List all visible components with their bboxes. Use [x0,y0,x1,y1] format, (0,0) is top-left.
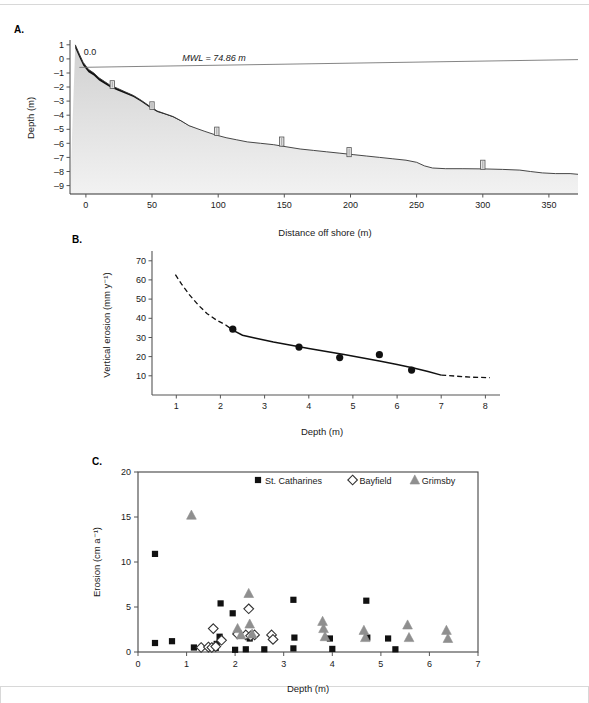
panel-b-x-tick-label: 1 [174,401,179,411]
panel-c-legend: St. CatharinesBayfieldGrimsby [255,475,456,486]
page-edge-left [0,686,1,703]
panel-c-data-point [230,610,236,616]
panel-a-y-tick-label: –7 [54,153,64,163]
panel-c-data-point [290,645,296,651]
panel-c-data-point [443,633,453,642]
panel-c-y-axis-title: Erosion (cm a⁻¹) [91,527,102,597]
panel-c-y-tick-label: 15 [121,512,131,522]
panel-c-data-point [152,551,158,557]
panel-c-x-tick-label: 0 [135,659,140,669]
panel-c-data-point [187,510,197,519]
legend-label: Bayfield [360,476,392,486]
legend-label: Grimsby [422,476,456,486]
panel-c-data-point [329,646,335,652]
panel-c-plot-frame [138,472,478,652]
panel-a-letter: A. [14,24,24,35]
panel-c-data-point [403,620,413,629]
panel-a-y-tick-label: 0 [59,54,64,64]
panel-c-data-point [291,635,297,641]
panel-a-y-tick-label: –1 [54,68,64,78]
panel-a-y-axis-title: Depth (m) [25,97,36,139]
mwl-label: MWL = 74.86 m [182,53,246,63]
panel-b-data-point [295,344,302,351]
panel-c-series-grimsby [187,510,453,642]
panel-c-data-point [359,625,369,634]
panel-c-x-tick-label: 1 [184,659,189,669]
panel-c-x-tick-label: 3 [281,659,286,669]
panel-a-y-tick-label: –6 [54,139,64,149]
panel-b-x-tick-label: 5 [350,401,355,411]
panel-a-x-tick-label: 0 [83,200,88,210]
panel-b-x-tick-label: 3 [262,401,267,411]
panel-c-data-point [290,597,296,603]
panel-c-data-point [261,646,267,652]
panel-a-y-tick-label: –2 [54,82,64,92]
panel-b: B. 1020304050607012345678Depth (m)Vertic… [0,230,589,442]
panel-b-x-tick-label: 7 [439,401,444,411]
panel-a-y-tick-label: –5 [54,124,64,134]
panel-b-chart: 1020304050607012345678Depth (m)Vertical … [0,230,589,442]
panel-b-x-tick-label: 6 [395,401,400,411]
panel-c-data-point [232,647,238,653]
panel-c-data-point [245,619,255,628]
panel-a-y-tick-label: –4 [54,110,64,120]
panel-b-data-point [408,367,415,374]
panel-c-data-point [243,646,249,652]
profile-fill [70,45,578,194]
panel-a-x-tick-label: 200 [343,200,358,210]
panel-c-data-point [244,604,254,614]
panel-c-data-point [244,588,254,597]
panel-c-y-tick-label: 0 [126,647,131,657]
panel-c-y-tick-label: 5 [126,602,131,612]
panel-b-y-tick-label: 30 [136,333,146,343]
legend-marker-triangle [410,475,420,484]
panel-b-x-tick-label: 4 [306,401,311,411]
page-top-rule [0,4,589,5]
panel-b-curve-dashed-left [175,275,225,325]
panel-b-y-tick-label: 40 [136,313,146,323]
legend-label: St. Catharines [265,476,323,486]
panel-b-y-tick-label: 10 [136,371,146,381]
panel-a-y-tick-label: 1 [59,40,64,50]
panel-b-data-point [336,354,343,361]
panel-c-data-point [363,598,369,604]
panel-a-x-tick-label: 100 [211,200,226,210]
panel-c-data-point [318,616,328,625]
panel-a-y-tick-label: –8 [54,167,64,177]
panel-a-y-tick-label: –3 [54,96,64,106]
panel-b-x-tick-label: 8 [483,401,488,411]
panel-c-data-point [404,633,414,642]
origin-label: 0.0 [84,47,97,57]
panel-c-data-point [442,625,452,634]
panel-b-y-tick-label: 70 [136,256,146,266]
panel-c-x-tick-label: 4 [330,659,335,669]
panel-c-data-point [208,624,218,634]
panel-c-data-point [152,640,158,646]
panel-b-data-point [376,351,383,358]
panel-c-chart: 0510152001234567St. CatharinesBayfieldGr… [0,452,589,686]
panel-c-data-point [385,635,391,641]
panel-b-data-point [229,326,236,333]
panel-c-letter: C. [92,456,102,467]
panel-b-y-axis-title: Vertical erosion (mm y⁻¹) [101,272,112,377]
panel-a-x-tick-label: 150 [277,200,292,210]
panel-b-y-tick-label: 20 [136,352,146,362]
panel-a-x-tick-label: 350 [541,200,556,210]
panel-c-y-tick-label: 20 [121,467,131,477]
panel-a-chart: MWL = 74.86 m0.010–1–2–3–4–5–6–7–8–90501… [0,16,589,222]
panel-c-data-point [169,638,175,644]
panel-c-x-tick-label: 5 [378,659,383,669]
legend-marker-diamond [348,475,358,485]
panel-c-x-tick-label: 6 [427,659,432,669]
panel-b-y-tick-label: 50 [136,294,146,304]
panel-a-x-tick-label: 50 [147,200,157,210]
figure-page: A. MWL = 74.86 m0.010–1–2–3–4–5–6–7–8–90… [0,0,589,703]
panel-a-x-tick-label: 300 [475,200,490,210]
panel-c-data-point [218,600,224,606]
panel-c-x-tick-label: 2 [233,659,238,669]
panel-b-letter: B. [72,234,82,245]
mean-water-level-line [79,60,578,68]
panel-c-data-point [392,646,398,652]
panel-c-y-tick-label: 10 [121,557,131,567]
panel-c-x-axis-title: Depth (m) [287,683,329,694]
